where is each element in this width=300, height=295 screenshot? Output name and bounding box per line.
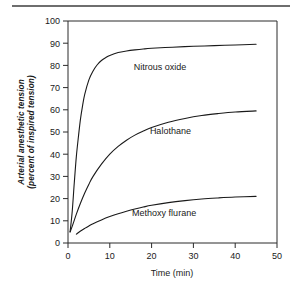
y-tick-label: 80 (50, 61, 60, 71)
y-tick-label: 100 (45, 16, 60, 26)
anesthetic-tension-chart: 0102030405060708090100 01020304050 Nitro… (0, 0, 300, 295)
y-axis-title-line2: (percent of inspired tension) (27, 75, 36, 189)
y-axis-ticks: 0102030405060708090100 (45, 16, 68, 248)
series-label: Nitrous oxide (134, 62, 187, 72)
series-labels: Nitrous oxideHalothaneMethoxy flurane (132, 62, 196, 219)
y-tick-label: 50 (50, 127, 60, 137)
y-tick-label: 70 (50, 83, 60, 93)
series-label: Halothane (150, 126, 191, 136)
x-tick-label: 50 (272, 251, 282, 261)
x-tick-label: 40 (230, 251, 240, 261)
y-tick-label: 30 (50, 172, 60, 182)
series-label: Methoxy flurane (132, 208, 196, 218)
figure-container: 0102030405060708090100 01020304050 Nitro… (0, 0, 300, 295)
series-curves (70, 44, 256, 234)
x-tick-label: 30 (188, 251, 198, 261)
x-tick-label: 10 (105, 251, 115, 261)
y-tick-label: 0 (55, 238, 60, 248)
y-tick-label: 60 (50, 105, 60, 115)
y-tick-label: 90 (50, 39, 60, 49)
y-tick-label: 40 (50, 150, 60, 160)
x-tick-label: 0 (65, 251, 70, 261)
y-tick-label: 20 (50, 194, 60, 204)
y-axis-title-line1: Arterial anesthetic tension (17, 79, 26, 186)
y-tick-label: 10 (50, 216, 60, 226)
x-axis-title: Time (min) (151, 268, 194, 278)
x-axis-ticks: 01020304050 (65, 243, 282, 261)
x-tick-label: 20 (147, 251, 157, 261)
